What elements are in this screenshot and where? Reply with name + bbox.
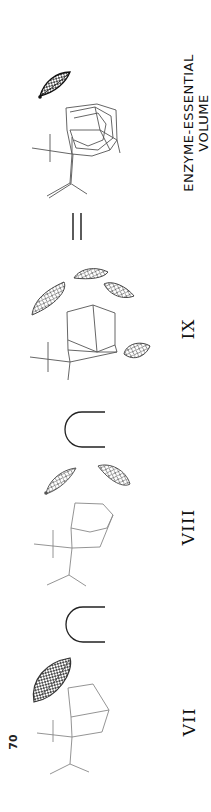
molecule-viii-volumes: [44, 465, 130, 495]
equals-sign: [73, 213, 81, 240]
page-number: 70: [7, 732, 21, 752]
panel-label-vii: VII: [179, 702, 201, 742]
figure-drawing: [0, 0, 211, 812]
paper-page: ENZYME-ESSENTIAL VOLUME IX VIII VII 70: [0, 0, 211, 812]
result-molecule: [32, 104, 120, 198]
molecule-ix: [30, 305, 117, 380]
result-label-line2: VOLUME: [196, 38, 211, 208]
panel-label-viii: VIII: [178, 502, 200, 552]
molecule-vii-volume: [33, 658, 70, 702]
molecule-ix-volumes: [32, 269, 150, 358]
subset-symbol-2: [66, 607, 105, 642]
result-volume-mesh: [38, 72, 70, 99]
panel-label-ix: IX: [178, 314, 200, 344]
subset-symbol-1: [65, 412, 105, 447]
result-label-line1: ENZYME-ESSENTIAL: [181, 38, 196, 208]
enzyme-essential-volume-label: ENZYME-ESSENTIAL VOLUME: [181, 38, 211, 208]
molecule-viii: [34, 503, 113, 586]
